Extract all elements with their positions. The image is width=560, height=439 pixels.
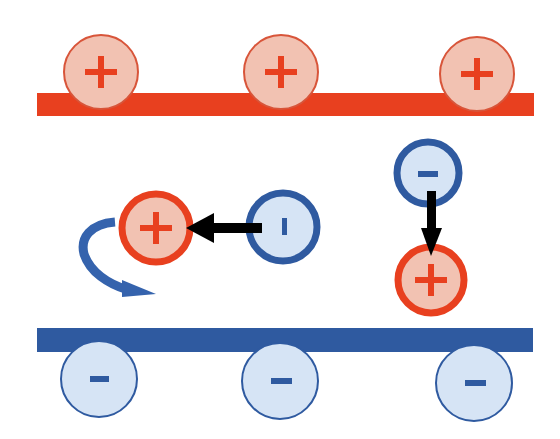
- positive-charge: [244, 35, 318, 109]
- negative-charge: [242, 343, 318, 419]
- negative-charge: [61, 341, 137, 417]
- free-pair-horizontal: [83, 193, 317, 297]
- positive-charge: [440, 37, 514, 111]
- free-pair-vertical: [397, 142, 464, 313]
- bottom-plate-charges: [61, 341, 512, 421]
- rotation-arrowhead-icon: [122, 280, 156, 297]
- charge-diagram: [0, 0, 560, 439]
- positive-charge: [64, 35, 138, 109]
- negative-charge: [436, 345, 512, 421]
- positive-charge: [398, 247, 464, 313]
- positive-charge: [122, 194, 190, 262]
